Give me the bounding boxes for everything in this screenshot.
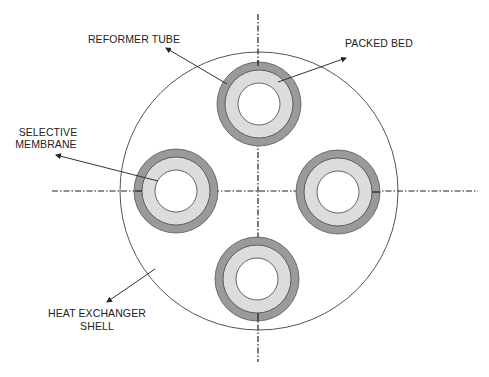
membrane-core — [238, 83, 280, 125]
reformer-cross-section-diagram: REFORMER TUBE PACKED BED SELECTIVE MEMBR… — [0, 0, 489, 377]
heat-exchanger-shell-label-line1: HEAT EXCHANGER — [48, 307, 146, 319]
packed-bed-leader-arrow — [278, 58, 346, 82]
tube-top — [217, 62, 301, 146]
membrane-core — [155, 170, 197, 212]
membrane-core — [317, 171, 359, 213]
tube-bottom — [215, 237, 299, 321]
membrane-core — [236, 258, 278, 300]
heat-exchanger-leader-arrow — [107, 269, 155, 302]
selective-membrane-label-line2: MEMBRANE — [15, 138, 76, 150]
heat-exchanger-shell-label-line2: SHELL — [80, 320, 114, 332]
reformer-tube-leader-arrow — [166, 48, 227, 84]
packed-bed-label: PACKED BED — [345, 37, 413, 49]
selective-membrane-label-line1: SELECTIVE — [19, 126, 78, 138]
tube-right — [296, 150, 380, 234]
reformer-tube-label: REFORMER TUBE — [88, 33, 180, 45]
tube-left — [134, 149, 218, 233]
